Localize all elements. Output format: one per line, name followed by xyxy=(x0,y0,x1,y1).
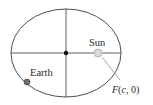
earth-icon xyxy=(24,79,30,85)
sun-label: Sun xyxy=(89,37,106,48)
sun-icon xyxy=(94,49,102,57)
focus-label: F(c, 0) xyxy=(111,84,139,96)
focus-label-rest: , 0) xyxy=(126,84,139,96)
center-point xyxy=(64,51,68,55)
orbit-diagram: Sun Earth F(c, 0) xyxy=(0,0,153,105)
earth-label: Earth xyxy=(30,67,53,78)
